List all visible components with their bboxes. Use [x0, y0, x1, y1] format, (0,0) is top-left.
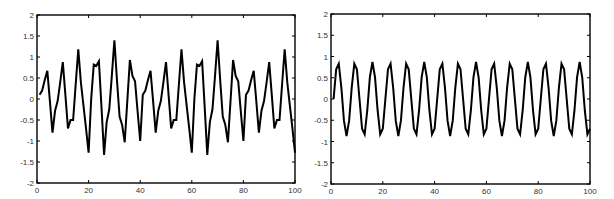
x-tick-label: 80	[239, 186, 248, 195]
y-tick-label: -0.5	[314, 116, 328, 125]
series-line-sinusoid	[334, 62, 590, 136]
y-tick-label: 1.5	[23, 32, 35, 41]
left-line-chart: -2-1.5-1-0.500.511.52020406080100	[20, 11, 302, 195]
x-tick-label: 40	[136, 186, 145, 195]
y-tick-label: 0	[324, 95, 329, 104]
x-tick-label: 60	[187, 186, 196, 195]
y-tick-label: -0.5	[20, 116, 34, 125]
x-tick-label: 20	[84, 186, 93, 195]
y-tick-label: -2	[27, 179, 35, 188]
x-tick-label: 100	[583, 187, 597, 196]
y-tick-label: 2	[30, 11, 35, 20]
series-line-signal	[40, 40, 295, 155]
x-tick-label: 80	[534, 187, 543, 196]
y-tick-label: 1	[30, 53, 35, 62]
x-tick-label: 100	[288, 186, 302, 195]
y-tick-label: 0.5	[23, 74, 35, 83]
y-tick-label: -1.5	[20, 158, 34, 167]
y-tick-label: 0.5	[317, 74, 329, 83]
x-tick-label: 0	[329, 187, 334, 196]
x-tick-label: 40	[430, 187, 439, 196]
right-line-chart: -2-1.5-1-0.500.511.52020406080100	[314, 10, 597, 196]
x-tick-label: 60	[482, 187, 491, 196]
y-tick-label: -1	[27, 137, 35, 146]
x-tick-label: 20	[378, 187, 387, 196]
y-tick-label: 2	[324, 10, 329, 19]
plot-frame	[331, 14, 590, 184]
y-tick-label: -1	[321, 138, 329, 147]
figure: -2-1.5-1-0.500.511.52020406080100 -2-1.5…	[0, 0, 614, 199]
y-tick-label: 1	[324, 53, 329, 62]
y-tick-label: -1.5	[314, 159, 328, 168]
y-tick-label: 0	[30, 95, 35, 104]
y-tick-label: -2	[321, 180, 329, 189]
y-tick-label: 1.5	[317, 31, 329, 40]
x-tick-label: 0	[35, 186, 40, 195]
